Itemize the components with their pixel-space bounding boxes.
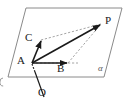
vector-ap xyxy=(32,25,100,63)
point-label-o: O xyxy=(38,87,46,98)
point-label-b: B xyxy=(57,63,64,74)
left-edge-partial-glyph xyxy=(0,78,3,86)
dashed-segment-c-to-p xyxy=(41,24,101,40)
point-label-p: P xyxy=(105,15,111,26)
point-label-c: C xyxy=(25,32,32,43)
line-oa-dashed-hidden xyxy=(32,64,35,72)
plane-label-alpha: α xyxy=(98,64,103,73)
point-label-a: A xyxy=(17,55,25,66)
dashed-segment-b-to-p xyxy=(68,24,101,63)
